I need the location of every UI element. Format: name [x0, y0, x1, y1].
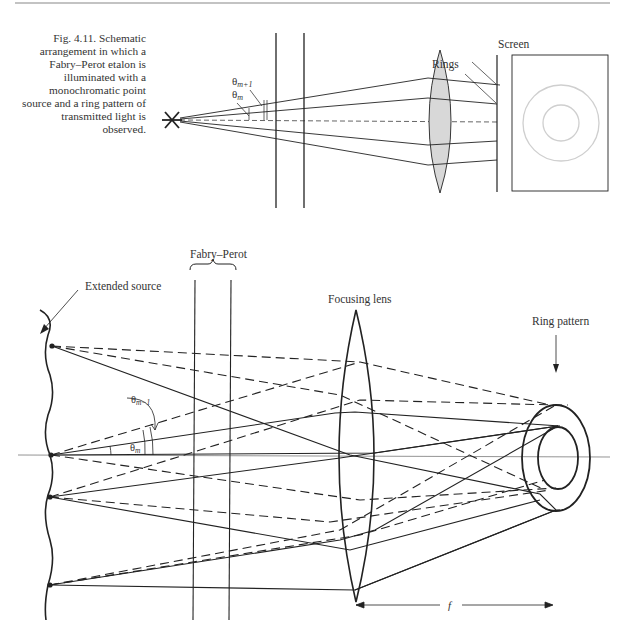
- theta-m1-label: θm+1: [232, 75, 252, 89]
- rings-label: Rings: [432, 58, 459, 71]
- theta-m-lower-label: θm: [130, 442, 141, 455]
- fabry-perot-label: Fabry–Perot: [190, 248, 248, 261]
- fp-plate-2: [229, 280, 231, 620]
- extended-source-arrow: [43, 290, 78, 330]
- theta-m1-leader: [250, 90, 262, 106]
- extended-source: [40, 310, 53, 620]
- point-source-icon: [162, 112, 182, 128]
- focal-length-label: f: [448, 599, 453, 611]
- outer-ring: [523, 85, 599, 161]
- top-diagram: [162, 33, 608, 208]
- solid-rays: [50, 346, 560, 590]
- theta-m-label: θm: [232, 88, 243, 102]
- outer-ring-ellipse: [522, 405, 590, 511]
- lens: [429, 50, 451, 193]
- inner-ring: [543, 105, 579, 141]
- fabry-perot-figure: θm θm+1 Rings Screen: [0, 0, 630, 635]
- extended-source-label: Extended source: [85, 280, 161, 292]
- theta-m1-lower-label: θm−1: [131, 394, 150, 407]
- bottom-diagram: [18, 259, 610, 620]
- dashed-rays: [50, 346, 568, 585]
- inner-ring-ellipse: [538, 427, 578, 489]
- fp-plate-1: [193, 280, 195, 620]
- focal-length-arrow: [356, 602, 553, 608]
- focusing-lens-label: Focusing lens: [328, 293, 392, 306]
- screen-box: [512, 55, 608, 191]
- ring-pattern-label: Ring pattern: [532, 315, 589, 328]
- screen-label: Screen: [498, 38, 530, 50]
- fp-brace: [190, 259, 236, 270]
